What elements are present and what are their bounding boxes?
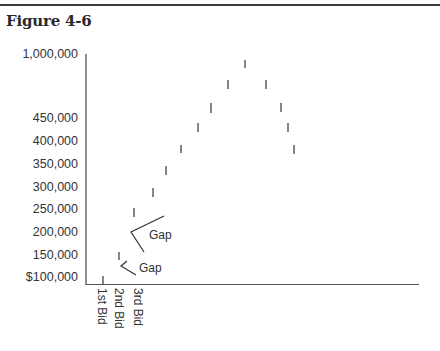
y-tick-label: 1,000,000 (22, 47, 78, 61)
y-tick-label: 250,000 (33, 202, 78, 216)
y-tick-label: $100,000 (26, 270, 78, 284)
y-tick-label: 350,000 (33, 157, 78, 171)
y-tick-label: 200,000 (33, 225, 78, 239)
x-tick-label-3rd-bid: 3rd Bid (131, 288, 145, 326)
y-tick-label: 400,000 (33, 134, 78, 148)
y-tick-label: 150,000 (33, 248, 78, 262)
y-tick-labels: 1,000,000 450,000 400,000 350,000 300,00… (22, 47, 78, 284)
x-tick-label-2nd-bid: 2nd Bid (112, 288, 126, 329)
y-tick-label: 300,000 (33, 180, 78, 194)
x-tick-label-1st-bid: 1st Bid (95, 288, 109, 325)
bid-marks (103, 60, 294, 285)
gap-bracket-lower (121, 261, 136, 275)
y-tick-label: 450,000 (33, 111, 78, 125)
gap-label-upper: Gap (149, 228, 172, 242)
chart: 1,000,000 450,000 400,000 350,000 300,00… (0, 0, 440, 351)
gap-label-lower: Gap (139, 261, 162, 275)
